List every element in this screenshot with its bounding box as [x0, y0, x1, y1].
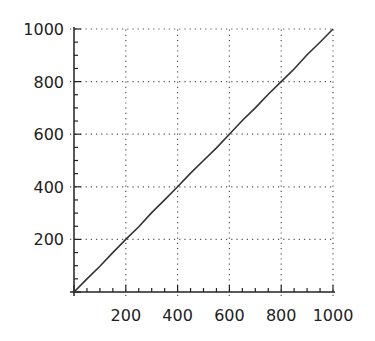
- line-chart: 2004006008001000 2004006008001000: [0, 0, 375, 341]
- x-tick-label: 200: [111, 306, 142, 325]
- data-line: [74, 29, 333, 292]
- x-tick-label: 800: [266, 306, 297, 325]
- y-tick-label: 600: [33, 125, 64, 144]
- x-tick-label: 400: [162, 306, 193, 325]
- y-tick-label: 200: [33, 230, 64, 249]
- x-tick-label: 600: [214, 306, 245, 325]
- y-tick-label: 400: [33, 178, 64, 197]
- x-tick-labels: 2004006008001000: [111, 306, 354, 325]
- y-tick-label: 1000: [23, 20, 64, 39]
- x-tick-label: 1000: [313, 306, 354, 325]
- y-tick-labels: 2004006008001000: [23, 20, 64, 249]
- y-tick-label: 800: [33, 73, 64, 92]
